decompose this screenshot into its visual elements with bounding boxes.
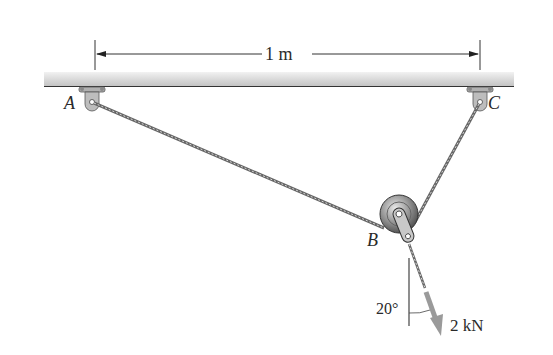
load-cable <box>409 244 425 288</box>
angle-arc <box>409 310 430 313</box>
pulley-b <box>380 195 418 244</box>
force-arrow <box>426 292 443 336</box>
point-b-label: B <box>367 230 378 251</box>
point-a-label: A <box>64 93 75 114</box>
dimension-label: 1 m <box>265 44 293 65</box>
force-label: 2 kN <box>450 316 484 336</box>
cable-ab <box>94 103 384 228</box>
point-c-label: C <box>488 93 500 114</box>
angle-label: 20° <box>376 300 398 318</box>
cable-cb <box>415 104 479 222</box>
ceiling-beam <box>44 72 514 87</box>
